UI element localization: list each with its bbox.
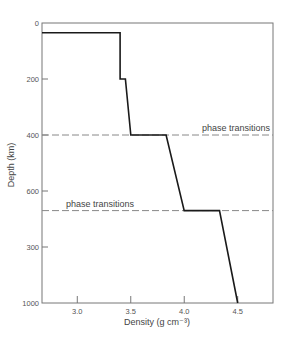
y-tick-label: 0 — [35, 19, 39, 28]
x-tick-label: 3.0 — [72, 307, 82, 316]
x-tick-label: 3.5 — [126, 307, 136, 316]
x-axis-ticks: 3.03.54.04.5 — [72, 296, 243, 316]
x-tick-label: 4.5 — [232, 307, 242, 316]
phase-transition-label: phase transitions — [66, 199, 135, 209]
y-tick-label: 400 — [26, 131, 39, 140]
density-depth-chart: 02004006003001000 3.03.54.04.5 phase tra… — [0, 0, 290, 346]
x-axis-title: Density (g cm⁻³) — [124, 317, 190, 327]
y-tick-label: 600 — [26, 187, 39, 196]
x-tick-label: 4.0 — [179, 307, 189, 316]
plot-frame — [42, 23, 273, 303]
y-tick-label: 200 — [26, 75, 39, 84]
y-axis-ticks: 02004006003001000 — [22, 19, 48, 308]
y-tick-label: 1000 — [22, 299, 39, 308]
plot-border — [42, 23, 273, 303]
phase-transition-lines: phase transitionsphase transitions — [42, 123, 273, 211]
phase-transition-label: phase transitions — [202, 123, 271, 133]
y-axis-title: Depth (km) — [6, 143, 16, 188]
density-curve — [42, 33, 238, 303]
density-profile-line — [42, 33, 238, 303]
y-tick-label: 300 — [26, 243, 39, 252]
